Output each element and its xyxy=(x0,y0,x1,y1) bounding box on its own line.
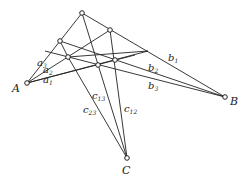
label-b2: b2 xyxy=(148,62,158,74)
points xyxy=(25,11,228,161)
label-b3: b3 xyxy=(148,80,158,92)
line-b2 xyxy=(60,41,225,97)
lines xyxy=(27,13,225,158)
label-C: C xyxy=(122,164,131,177)
diagram: A B C a3 a2 a1 b1 b2 b3 c13 c23 c12 xyxy=(0,0,250,182)
line-c12 xyxy=(110,30,127,158)
point-U xyxy=(113,58,118,63)
point-S xyxy=(96,63,101,68)
label-A: A xyxy=(11,82,20,95)
label-b1: b1 xyxy=(168,52,178,64)
point-T xyxy=(80,11,85,16)
point-C xyxy=(125,156,130,161)
line-c13 xyxy=(68,57,127,158)
point-P xyxy=(108,28,113,33)
line-b3 xyxy=(45,51,225,97)
label-c12: c12 xyxy=(124,103,137,115)
label-B: B xyxy=(229,95,238,108)
label-c13: c13 xyxy=(92,90,105,102)
label-c23: c23 xyxy=(83,104,96,116)
point-B xyxy=(223,95,228,100)
point-A xyxy=(25,81,30,86)
line-c23 xyxy=(82,13,127,158)
configuration-figure: A B C a3 a2 a1 b1 b2 b3 c13 c23 c12 xyxy=(0,0,250,182)
point-Q xyxy=(58,39,63,44)
line-A-T xyxy=(27,13,82,83)
point-R xyxy=(66,55,71,60)
